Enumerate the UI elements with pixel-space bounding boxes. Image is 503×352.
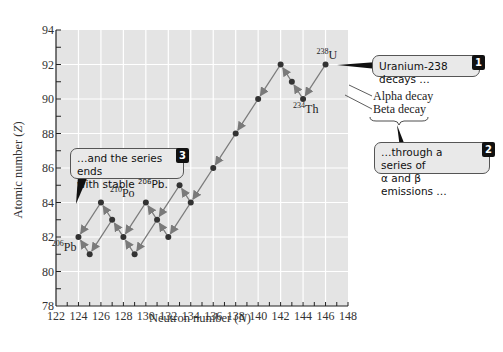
brace — [370, 117, 428, 125]
point-rn222 — [210, 165, 216, 171]
callout-3: …and the series ends with stable 206Pb. … — [70, 148, 184, 179]
point-pb214 — [165, 234, 171, 240]
point-tl206 — [87, 251, 93, 257]
callout-3-line1: …and the series ends — [77, 152, 169, 178]
callout-3-line2: with stable 206Pb. — [77, 178, 169, 191]
y-tick-label: 94 — [42, 23, 54, 37]
legend-alpha: Alpha decay — [373, 89, 433, 103]
callout-2-line1: …through a series of — [381, 146, 475, 172]
x-tick-label: 126 — [92, 309, 110, 323]
point-po214 — [143, 200, 149, 206]
callout-1: Uranium-238 decays … 1 — [372, 55, 480, 77]
legend-beta: Beta decay — [373, 102, 426, 116]
x-tick-label: 146 — [317, 309, 335, 323]
y-tick-label: 90 — [42, 92, 54, 106]
y-tick-label: 84 — [42, 196, 54, 210]
point-ra226 — [233, 131, 239, 137]
x-tick-label: 144 — [294, 309, 312, 323]
beta-leader-line — [345, 95, 372, 109]
x-tick-label: 142 — [272, 309, 290, 323]
point-bi214 — [154, 217, 160, 223]
y-tick-label: 78 — [42, 299, 54, 313]
y-tick-label: 92 — [42, 58, 54, 72]
point-pb210 — [120, 234, 126, 240]
y-tick-label: 88 — [42, 127, 54, 141]
y-axis-title: Atomic number (Z) — [11, 121, 25, 218]
point-th230 — [255, 96, 261, 102]
point-pa234 — [289, 79, 295, 85]
callout-2-badge: 2 — [482, 142, 495, 157]
x-tick-label: 140 — [249, 309, 267, 323]
point-po210 — [98, 200, 104, 206]
x-tick-label: 124 — [69, 309, 87, 323]
callout-2-line2: α and β emissions … — [381, 172, 475, 198]
point-bi210 — [109, 217, 115, 223]
point-tl210 — [132, 251, 138, 257]
point-u234 — [278, 62, 284, 68]
alpha-leader-line — [349, 85, 372, 96]
callout-3-badge: 3 — [176, 148, 189, 163]
callout-1-badge: 1 — [472, 55, 485, 70]
x-tick-label: 128 — [114, 309, 132, 323]
y-tick-label: 80 — [42, 265, 54, 279]
point-po218 — [188, 200, 194, 206]
callout-2: …through a series of α and β emissions …… — [374, 142, 490, 174]
x-tick-label: 148 — [339, 309, 357, 323]
point-u238 — [323, 62, 329, 68]
point-at218 — [177, 182, 183, 188]
x-axis-title: Neutron number (N) — [149, 311, 251, 325]
y-tick-label: 86 — [42, 161, 54, 175]
